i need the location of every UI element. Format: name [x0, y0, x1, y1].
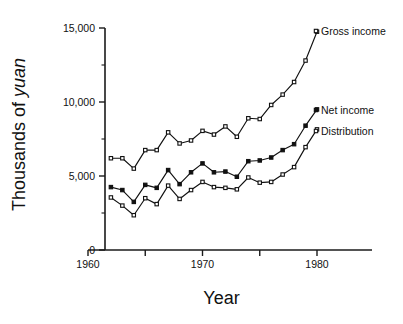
data-point-marker — [155, 148, 158, 151]
data-point-marker — [235, 135, 238, 138]
x-axis-ticks: 196019701980 — [76, 250, 329, 270]
data-point-marker — [109, 196, 112, 199]
x-tick-label: 1960 — [76, 258, 100, 270]
data-point-marker — [144, 197, 147, 200]
data-point-marker — [189, 171, 192, 174]
data-point-marker — [292, 165, 295, 168]
data-point-marker — [121, 157, 124, 160]
data-point-marker — [270, 156, 273, 159]
data-point-marker — [281, 148, 284, 151]
data-point-marker — [304, 145, 307, 148]
series-label-distribution: Distribution — [321, 125, 374, 137]
data-point-marker — [235, 188, 238, 191]
data-point-marker — [132, 167, 135, 170]
data-point-marker — [247, 176, 250, 179]
y-tick-label: 15,000 — [63, 22, 95, 34]
data-point-marker — [132, 200, 135, 203]
data-point-marker — [155, 202, 158, 205]
series-labels-group: Gross incomeNet incomeDistribution — [314, 25, 386, 137]
data-point-marker — [258, 181, 261, 184]
line-chart-plot: 05,00010,00015,000 196019701980 Gross in… — [0, 0, 403, 324]
data-point-marker — [235, 175, 238, 178]
data-point-marker — [224, 125, 227, 128]
data-point-marker — [121, 204, 124, 207]
data-point-marker — [201, 129, 204, 132]
data-point-marker — [281, 173, 284, 176]
data-point-marker — [178, 197, 181, 200]
data-point-marker — [292, 80, 295, 83]
data-point-marker — [247, 117, 250, 120]
data-point-marker — [292, 142, 295, 145]
x-axis-title: Year — [0, 288, 403, 309]
series-label-gross: Gross income — [321, 25, 386, 37]
y-axis-ticks: 05,00010,00015,000 — [63, 22, 105, 256]
data-point-marker — [144, 183, 147, 186]
data-point-marker — [189, 188, 192, 191]
data-point-marker — [109, 185, 112, 188]
data-point-marker — [212, 185, 215, 188]
data-point-marker — [155, 186, 158, 189]
data-point-marker — [201, 162, 204, 165]
data-point-marker — [166, 168, 169, 171]
x-axis-title-text: Year — [163, 288, 239, 309]
series-label-net: Net income — [321, 104, 374, 116]
data-point-marker — [121, 188, 124, 191]
y-tick-label: 0 — [89, 244, 95, 256]
data-point-marker — [212, 171, 215, 174]
data-point-marker — [258, 117, 261, 120]
series-label-marker-distribution — [314, 129, 317, 132]
data-point-marker — [178, 182, 181, 185]
y-tick-label: 5,000 — [69, 170, 95, 182]
data-point-marker — [166, 184, 169, 187]
data-point-marker — [270, 103, 273, 106]
data-point-marker — [109, 157, 112, 160]
data-point-marker — [144, 148, 147, 151]
chart-figure: Thousands of yuan 05,00010,00015,000 196… — [0, 0, 403, 324]
axes — [88, 28, 372, 250]
series-label-marker-net — [314, 108, 317, 111]
x-tick-label: 1980 — [305, 258, 329, 270]
data-series-group — [109, 30, 318, 217]
data-point-marker — [189, 139, 192, 142]
data-point-marker — [258, 159, 261, 162]
data-point-marker — [132, 214, 135, 217]
data-point-marker — [224, 170, 227, 173]
data-point-marker — [166, 131, 169, 134]
data-point-marker — [201, 180, 204, 183]
data-point-marker — [281, 93, 284, 96]
x-tick-label: 1970 — [191, 258, 215, 270]
data-point-marker — [178, 142, 181, 145]
data-point-marker — [304, 124, 307, 127]
data-point-marker — [304, 59, 307, 62]
data-point-marker — [247, 160, 250, 163]
data-point-marker — [224, 186, 227, 189]
data-point-marker — [270, 180, 273, 183]
data-point-marker — [212, 133, 215, 136]
series-label-marker-gross — [314, 29, 317, 32]
y-tick-label: 10,000 — [63, 96, 95, 108]
